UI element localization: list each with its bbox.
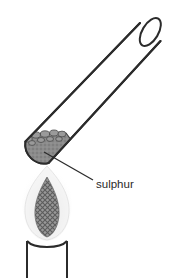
test-tube — [20, 15, 165, 166]
sulphur-label: sulphur — [96, 178, 134, 190]
sulphur-solid — [20, 130, 72, 166]
bunsen-burner — [27, 241, 67, 278]
burner-rim — [27, 241, 67, 247]
sulphur-heating-diagram: sulphur — [0, 0, 179, 278]
burner-flame — [22, 165, 72, 241]
diagram-canvas: sulphur — [0, 0, 179, 278]
